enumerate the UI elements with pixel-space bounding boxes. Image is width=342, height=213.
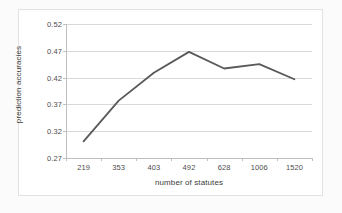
x-axis-tick-label: 403: [147, 163, 160, 172]
y-axis-tick-label: 0.32: [47, 127, 62, 136]
y-axis-tick-label: 0.52: [47, 20, 62, 29]
x-axis-tick-label: 353: [112, 163, 125, 172]
chart-figure: 0.270.320.370.420.470.52 number of statu…: [0, 0, 342, 213]
x-axis-tick-label: 628: [218, 163, 231, 172]
x-axis-tick: [207, 158, 208, 161]
x-axis-title: number of statutes: [66, 178, 312, 187]
plot-area: [66, 24, 312, 158]
x-axis-tick: [101, 158, 102, 161]
x-axis-tick: [171, 158, 172, 161]
gridline: [66, 24, 312, 25]
y-axis-tick-label: 0.42: [47, 73, 62, 82]
x-axis-tick-label: 1006: [251, 163, 268, 172]
y-axis-title: prediction accuracies: [14, 37, 23, 133]
gridline: [66, 131, 312, 132]
y-axis-tick-label: 0.27: [47, 154, 62, 163]
gridline: [66, 104, 312, 105]
x-axis-tick-label: 492: [183, 163, 196, 172]
y-axis-line: [66, 24, 67, 158]
x-axis-tick: [136, 158, 137, 161]
gridline: [66, 158, 312, 159]
x-axis-tick: [312, 158, 313, 161]
gridline: [66, 51, 312, 52]
x-axis-tick: [242, 158, 243, 161]
y-axis-tick-labels: 0.270.320.370.420.470.52: [0, 0, 62, 213]
y-axis-tick-label: 0.47: [47, 46, 62, 55]
x-axis-tick-label: 1520: [286, 163, 303, 172]
y-axis-tick-label: 0.37: [47, 100, 62, 109]
x-axis-tick: [277, 158, 278, 161]
gridline: [66, 78, 312, 79]
x-axis-tick-label: 219: [77, 163, 90, 172]
x-axis-tick: [66, 158, 67, 161]
